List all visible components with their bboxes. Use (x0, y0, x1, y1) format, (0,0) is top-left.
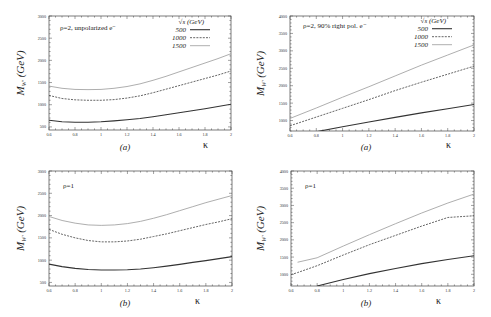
series-line-1000 (49, 71, 231, 100)
x-tick-label: 1.6 (419, 288, 424, 293)
legend-entry: 1500 (414, 41, 429, 49)
y-tick-label: 1000 (279, 118, 287, 123)
x-axis-label: κ (446, 139, 451, 150)
legend: √s (GeV)50010001500 (172, 18, 210, 50)
legend-entry: 1500 (172, 42, 187, 50)
x-axis-label: κ (203, 139, 208, 150)
x-tick-label: 1.8 (202, 132, 207, 137)
y-tick-label: 1000 (280, 272, 288, 277)
plot-annotation: ρ=1 (305, 182, 316, 190)
plot-annotation: ρ=2, unpolarized e⁻ (60, 24, 116, 32)
x-tick-label: 1.8 (445, 288, 450, 293)
plot-frame (49, 16, 231, 130)
y-tick-label: 3500 (279, 31, 287, 36)
x-tick-label: 2 (473, 288, 475, 293)
series-line-1000 (290, 66, 474, 126)
x-tick-label: 0.8 (72, 132, 77, 137)
y-tick-label: 1500 (38, 235, 46, 240)
x-tick-label: 0.6 (288, 288, 293, 293)
y-tick-label: 3000 (280, 203, 288, 208)
y-tick-label: 2000 (279, 83, 287, 88)
plot-annotation: ρ=1 (63, 182, 74, 190)
series-line-1500 (49, 196, 232, 226)
x-tick-label: 1.6 (177, 288, 182, 293)
panel-label: (b) (361, 298, 372, 308)
y-tick-label: 2500 (38, 36, 46, 41)
series-line-1000 (291, 216, 474, 275)
plot-frame (291, 171, 474, 286)
x-tick-label: 1.4 (150, 132, 156, 137)
x-tick-label: 0.8 (314, 133, 319, 138)
series-line-500 (49, 257, 232, 270)
legend-entry: 500 (176, 26, 187, 34)
x-tick-label: 1.2 (366, 133, 371, 138)
y-tick-label: 2500 (279, 66, 287, 71)
legend-entry: 1000 (414, 33, 429, 41)
y-tick-label: 2500 (38, 191, 46, 196)
y-axis-label: MW' (GeV) (14, 50, 27, 96)
y-tick-label: 1000 (38, 258, 46, 263)
y-tick-label: 3000 (279, 48, 287, 53)
x-tick-label: 1.2 (125, 288, 130, 293)
y-tick-label: 500 (40, 280, 46, 285)
y-tick-label: 500 (40, 124, 46, 129)
legend-entry: 1000 (172, 34, 187, 42)
series-line-1500 (290, 45, 474, 119)
y-tick-label: 2000 (280, 237, 288, 242)
x-tick-label: 1.8 (445, 133, 450, 138)
y-tick-label: 1000 (38, 102, 46, 107)
y-tick-label: 3500 (280, 186, 288, 191)
plot-bottom-right: 0.60.811.21.41.61.8210001500200025003000… (254, 169, 475, 309)
plot-top-left: 0.60.811.21.41.61.8250010001500200025003… (14, 14, 232, 153)
legend-title: √s (GeV) (421, 17, 447, 25)
x-tick-label: 1.6 (176, 132, 181, 137)
x-axis-label: κ (436, 295, 441, 306)
x-tick-label: 1.8 (203, 288, 208, 293)
x-tick-label: 1 (100, 288, 102, 293)
x-tick-label: 1.4 (393, 288, 399, 293)
y-tick-label: 2000 (38, 213, 46, 218)
legend-title: √s (GeV) (179, 18, 205, 26)
y-tick-label: 4000 (280, 169, 288, 174)
series-line-1000 (49, 219, 232, 242)
x-tick-label: 1 (342, 133, 344, 138)
x-tick-label: 0.8 (73, 288, 78, 293)
series-line-500 (317, 256, 474, 286)
y-tick-label: 1500 (280, 255, 288, 260)
x-tick-label: 0.8 (315, 288, 320, 293)
y-tick-label: 1500 (279, 101, 287, 106)
series-line-500 (49, 104, 231, 122)
x-tick-label: 1 (100, 132, 102, 137)
legend-entry: 500 (418, 25, 429, 33)
plot-frame (290, 16, 474, 131)
y-axis-label: MW' (GeV) (14, 206, 27, 252)
plot-annotation: ρ=2, 90% right pol. e⁻ (303, 22, 367, 30)
x-axis-label: κ (195, 295, 200, 306)
y-tick-label: 2500 (280, 220, 288, 225)
x-tick-label: 0.6 (46, 132, 51, 137)
series-line-1500 (49, 54, 231, 90)
x-tick-label: 2 (473, 133, 475, 138)
x-tick-label: 1.4 (393, 133, 399, 138)
x-tick-label: 2 (230, 132, 232, 137)
panel-label: (a) (120, 142, 131, 152)
x-tick-label: 0.6 (287, 133, 292, 138)
series-line-1500 (298, 194, 474, 262)
y-tick-label: 1500 (38, 80, 46, 85)
y-tick-label: 3000 (38, 169, 46, 174)
y-tick-label: 3000 (38, 14, 46, 19)
legend: √s (GeV)50010001500 (414, 17, 452, 49)
plot-bottom-left: 0.60.811.21.41.61.8250010001500200025003… (14, 169, 233, 309)
panel-label: (a) (361, 142, 372, 152)
x-tick-label: 1.6 (419, 133, 424, 138)
x-tick-label: 1 (342, 288, 344, 293)
x-tick-label: 0.6 (46, 288, 51, 293)
x-tick-label: 1.2 (367, 288, 372, 293)
y-axis-label: MW' (GeV) (254, 51, 267, 97)
y-tick-label: 2000 (38, 58, 46, 63)
panel-label: (b) (120, 298, 131, 308)
y-tick-label: 4000 (279, 14, 287, 19)
figure: 0.60.811.21.41.61.8250010001500200025003… (0, 0, 491, 317)
x-tick-label: 1.4 (151, 288, 157, 293)
x-tick-label: 1.2 (124, 132, 129, 137)
